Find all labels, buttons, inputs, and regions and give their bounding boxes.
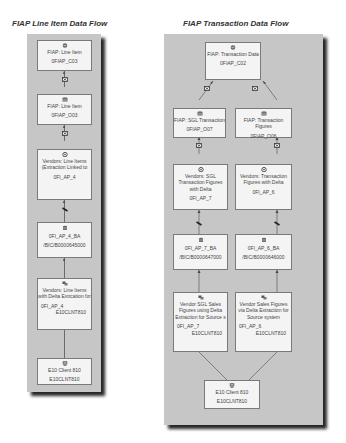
node-infosource-line-items[interactable]: Vendors: Line Items (Extraction Linked t…	[37, 149, 92, 200]
node-multiprovider-line-item[interactable]: FIAP: Line Item 0FIAP_C03	[37, 40, 92, 71]
node-datasource-sgl-sales-delta[interactable]: Vendor SGL Sales Figures using Delta Ext…	[173, 292, 228, 352]
node-source-system-e10[interactable]: E10 Client 810 E10CLNT810	[204, 380, 260, 409]
left-diagram-title: FIAP Line Item Data Flow	[12, 19, 107, 28]
ods-icon	[261, 111, 267, 116]
arrowhead-icon	[63, 125, 65, 128]
source-system-icon	[229, 383, 235, 388]
connector-lines	[164, 34, 323, 425]
infosource-icon	[198, 167, 204, 172]
node-datasource-sales-delta[interactable]: Vendor Sales Figures via Delta Extractio…	[235, 292, 292, 352]
node-ods-sgl-transaction[interactable]: FIAP: SGL Transaction 0FIAP_O07	[173, 108, 226, 138]
node-infocube-transaction-data[interactable]: FIAP: Transaction Data 0FIAP_C02	[205, 42, 261, 80]
datasource-icon	[261, 295, 267, 300]
node-ods-transaction-figures[interactable]: FIAP: Transaction Figures 0FIAP_O06	[235, 108, 292, 138]
update-rule-icon	[62, 77, 68, 82]
datasource-table-icon	[62, 225, 68, 231]
ods-icon	[197, 111, 203, 116]
transfer-rule-icon	[196, 221, 202, 226]
node-infosource-figures-delta[interactable]: Vendors: Transaction Figures with Delta …	[235, 164, 292, 210]
datasource-icon	[62, 281, 68, 286]
node-source-system-e10[interactable]: E10 Client 810 E10CLNT810	[37, 358, 92, 385]
update-rule-icon	[62, 131, 68, 136]
update-rule-icon	[274, 143, 280, 148]
ods-icon	[62, 97, 68, 102]
connector-line	[64, 258, 65, 278]
source-system-icon	[62, 361, 68, 366]
infosource-icon	[62, 152, 68, 157]
infosource-icon	[261, 167, 267, 172]
connector-line	[64, 330, 65, 358]
multiprovider-icon	[62, 43, 68, 48]
infocube-icon	[230, 45, 236, 50]
arrowhead-icon	[63, 200, 65, 203]
node-datasource-0fi-ap-6-ba[interactable]: 0FI_AP_6_BA /BIC/B0000646000	[235, 234, 292, 270]
update-rule-icon	[196, 143, 202, 148]
transfer-rule-icon	[274, 221, 280, 226]
datasource-table-icon	[261, 237, 267, 243]
update-rule-icon	[252, 86, 258, 91]
datasource-icon	[198, 295, 204, 300]
arrowhead-icon	[63, 258, 65, 261]
datasource-table-icon	[198, 237, 204, 243]
node-ods-line-item[interactable]: FIAP: Line Item 0FIAP_O03	[37, 94, 92, 125]
arrowhead-icon	[63, 71, 65, 74]
right-diagram-title: FIAP Transaction Data Flow	[183, 19, 288, 28]
node-datasource-0fi-ap-4-ba[interactable]: 0FI_AP_4_BA /BIC/B0000645000	[37, 222, 92, 258]
node-infosource-sgl-delta[interactable]: Vendors: SGL Transaction Figures with De…	[173, 164, 228, 210]
transfer-rule-icon	[62, 207, 68, 212]
update-rule-icon	[204, 86, 210, 91]
node-datasource-line-items-delta[interactable]: Vendors: Line Items with Delta Extrcatio…	[37, 278, 92, 330]
node-datasource-0fi-ap-7-ba[interactable]: 0FI_AP_7_BA /BIC/B0000647000	[173, 234, 228, 270]
